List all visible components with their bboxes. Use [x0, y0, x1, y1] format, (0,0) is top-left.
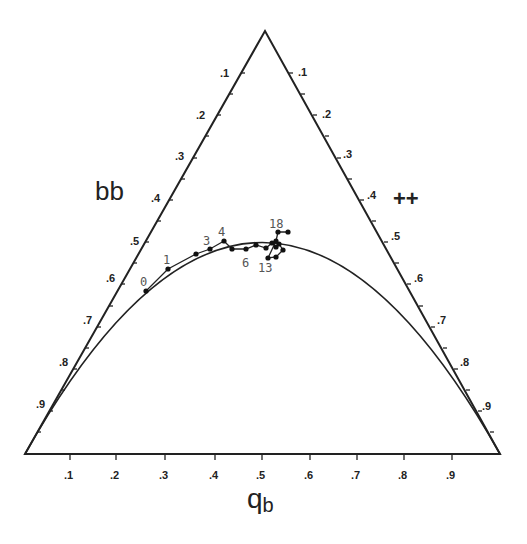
tick-label: .8: [59, 356, 68, 368]
tick-label: .8: [398, 469, 407, 481]
data-point: [265, 255, 270, 260]
data-point: [221, 238, 226, 243]
tick-label: .7: [351, 469, 360, 481]
point-label: 13: [258, 261, 272, 275]
right-ticks: [289, 73, 494, 432]
tick-label: .1: [298, 66, 307, 78]
tick-label: .4: [367, 189, 377, 201]
tick-label: .5: [256, 469, 265, 481]
ternary-chart: .1 .2 .3 .4 .5 .6 .7 .8 .9 .1 .2 .3 .4 .…: [0, 0, 527, 544]
point-label: 1: [163, 253, 170, 267]
bottom-axis-title: qb: [247, 483, 274, 516]
tick-label: .4: [209, 469, 219, 481]
point-label: 6: [242, 256, 249, 270]
left-axis-title: bb: [95, 176, 124, 206]
point-label: 3: [203, 234, 210, 248]
axis-title-main: q: [247, 483, 263, 514]
axis-title-subscript: b: [263, 494, 274, 516]
point-labels: 0 1 3 4 6 13 18: [140, 217, 283, 289]
tick-label: .1: [220, 67, 229, 79]
tick-label: .9: [446, 469, 455, 481]
point-label: 4: [218, 225, 225, 239]
right-axis-title: ++: [393, 186, 419, 211]
tick-label: .8: [460, 356, 469, 368]
left-tick-labels: .1 .2 .3 .4 .5 .6 .7 .8 .9: [36, 67, 229, 410]
point-label: 18: [269, 217, 283, 231]
bottom-tick-labels: .1 .2 .3 .4 .5 .6 .7 .8 .9: [64, 469, 455, 481]
tick-label: .5: [391, 230, 400, 242]
data-point: [165, 266, 170, 271]
tick-label: .2: [110, 469, 119, 481]
data-point: [273, 254, 278, 259]
tick-label: .7: [437, 314, 446, 326]
tick-label: .2: [322, 108, 331, 120]
data-point: [253, 242, 258, 247]
data-point: [273, 238, 278, 243]
point-label: 0: [140, 275, 147, 289]
tick-label: .5: [130, 235, 139, 247]
data-point: [285, 229, 290, 234]
data-point: [263, 245, 268, 250]
tick-label: .6: [414, 272, 423, 284]
tick-label: .3: [159, 469, 168, 481]
tick-label: .9: [36, 398, 45, 410]
tick-label: .7: [83, 314, 92, 326]
tick-label: .3: [175, 150, 184, 162]
data-point: [243, 246, 248, 251]
tick-label: .9: [482, 400, 491, 412]
data-point: [193, 251, 198, 256]
tick-label: .1: [64, 469, 73, 481]
tick-label: .3: [343, 148, 352, 160]
data-point: [143, 288, 148, 293]
tick-label: .6: [304, 469, 313, 481]
data-point: [229, 246, 234, 251]
right-tick-labels: .1 .2 .3 .4 .5 .6 .7 .8 .9: [298, 66, 491, 412]
data-point: [280, 247, 285, 252]
tick-label: .4: [151, 192, 161, 204]
tick-label: .6: [106, 272, 115, 284]
tick-label: .2: [196, 109, 205, 121]
